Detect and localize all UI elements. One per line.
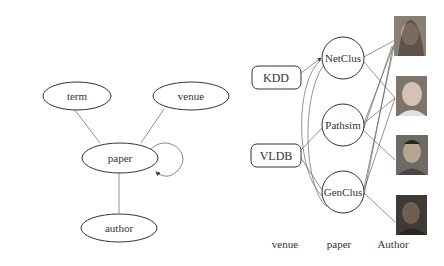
- column-label-author: Author: [377, 238, 409, 250]
- node-paper: paper: [82, 143, 158, 173]
- node-term: term: [43, 82, 111, 110]
- paper-pathsim-label: Pathsim: [325, 119, 361, 131]
- node-venue: venue: [153, 82, 229, 110]
- venue-kdd: KDD: [252, 66, 301, 89]
- column-label-venue: venue: [272, 238, 298, 250]
- paper-genclus-label: GenClus: [324, 186, 363, 198]
- node-author-label: author: [105, 222, 133, 234]
- instance-graph: KDD VLDB NetClus Pathsim GenClus: [251, 16, 428, 250]
- node-term-label: term: [67, 90, 88, 102]
- author-photo-2: [396, 76, 427, 116]
- paper-netclus: NetClus: [322, 37, 364, 79]
- paper-pathsim: Pathsim: [322, 104, 364, 146]
- node-paper-label: paper: [108, 152, 133, 164]
- node-author: author: [81, 214, 157, 242]
- node-venue-label: venue: [178, 90, 204, 102]
- venue-vldb: VLDB: [251, 144, 301, 167]
- column-label-paper: paper: [327, 238, 352, 250]
- paper-genclus: GenClus: [322, 171, 364, 213]
- paper-netclus-label: NetClus: [325, 52, 361, 64]
- venue-vldb-label: VLDB: [260, 149, 293, 163]
- author-photo-4: [396, 195, 427, 235]
- author-photo-3: [396, 135, 428, 175]
- schema-graph: term venue paper author: [43, 82, 229, 242]
- author-photo-1: [394, 16, 426, 56]
- venue-kdd-label: KDD: [263, 71, 289, 85]
